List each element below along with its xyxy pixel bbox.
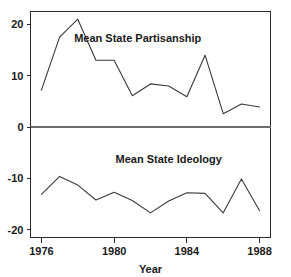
y-tick-label: 20 [11, 18, 23, 30]
x-tick-label: 1980 [102, 245, 126, 257]
x-tick-label: 1976 [29, 245, 53, 257]
chart-container: 20100-10-20 1976198019841988 Year Mean S… [0, 0, 291, 277]
x-axis-title: Year [139, 263, 163, 275]
line-chart: 20100-10-20 1976198019841988 Year Mean S… [0, 0, 291, 277]
y-tick-label: 0 [17, 121, 23, 133]
y-tick-label: -20 [8, 224, 24, 236]
series-label-partisanship: Mean State Partisanship [74, 32, 201, 44]
x-tick-label: 1984 [175, 245, 200, 257]
series-label-ideology: Mean State Ideology [116, 153, 223, 165]
y-tick-label: 10 [11, 70, 23, 82]
y-tick-label: -10 [8, 172, 24, 184]
x-tick-label: 1988 [247, 245, 271, 257]
